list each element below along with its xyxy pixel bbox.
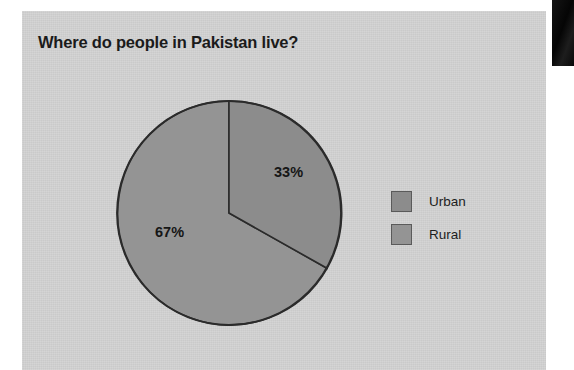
legend-swatch-rural: [391, 224, 412, 245]
pie-chart-svg: [113, 97, 345, 329]
pie-chart: [113, 97, 345, 329]
legend-label-urban: Urban: [429, 194, 466, 209]
slide-canvas: Where do people in Pakistan live? 33% 67…: [0, 0, 574, 370]
pie-label-rural: 67%: [155, 224, 184, 240]
legend-item-urban[interactable]: Urban: [391, 190, 466, 213]
legend-label-rural: Rural: [429, 227, 461, 242]
legend-item-rural[interactable]: Rural: [391, 223, 466, 246]
page-title: Where do people in Pakistan live?: [38, 33, 298, 52]
pie-label-urban: 33%: [274, 164, 303, 180]
chart-legend: Urban Rural: [391, 190, 466, 256]
corner-decoration-block: [552, 0, 574, 66]
legend-swatch-urban: [391, 191, 412, 212]
